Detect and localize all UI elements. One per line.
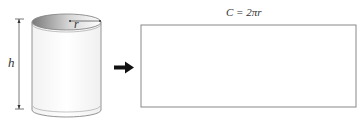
diagram-canvas — [0, 0, 364, 126]
unrolled-rectangle — [141, 25, 356, 107]
arrow-right-icon — [114, 62, 134, 74]
cylinder — [32, 14, 101, 117]
circumference-label: C = 2πr — [226, 6, 262, 18]
radius-label: r — [74, 17, 79, 32]
height-label: h — [8, 55, 15, 71]
height-dimension-line — [15, 19, 24, 109]
